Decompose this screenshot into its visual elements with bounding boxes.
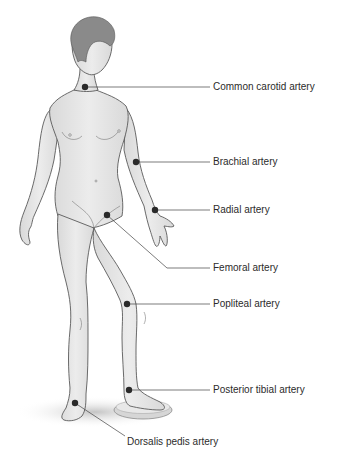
torso xyxy=(50,90,129,228)
left-leg xyxy=(57,214,94,421)
dot-popliteal xyxy=(124,301,130,307)
dot-radial xyxy=(152,207,158,213)
dot-dorsalis-pedis xyxy=(72,400,78,406)
right-arm xyxy=(124,108,174,246)
label-common-carotid: Common carotid artery xyxy=(213,81,315,93)
body xyxy=(20,20,174,421)
dot-common-carotid xyxy=(82,84,88,90)
label-dorsalis-pedis: Dorsalis pedis artery xyxy=(127,436,218,448)
dot-femoral xyxy=(104,212,110,218)
label-posterior-tibial: Posterior tibial artery xyxy=(213,384,305,396)
label-brachial: Brachial artery xyxy=(213,156,277,168)
dot-brachial xyxy=(133,159,139,165)
label-femoral: Femoral artery xyxy=(213,262,278,274)
label-popliteal: Popliteal artery xyxy=(213,298,280,310)
label-radial: Radial artery xyxy=(213,204,270,216)
right-leg xyxy=(93,228,164,410)
dot-posterior-tibial xyxy=(126,387,132,393)
